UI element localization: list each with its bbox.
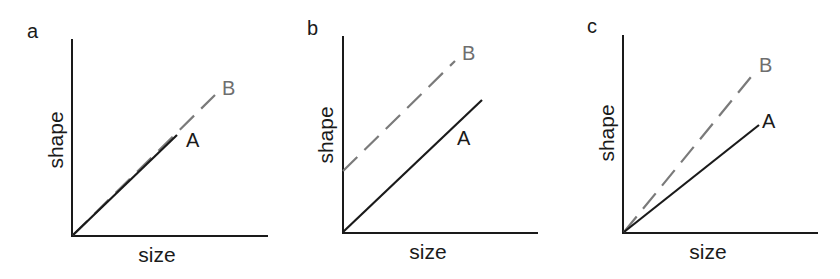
figure-canvas: a size shape A B b size shape A B c size…: [0, 0, 840, 279]
panel-letter: b: [307, 17, 318, 39]
panel-b: b size shape A B: [307, 17, 538, 263]
line-a-label: A: [186, 129, 200, 151]
line-b-label: B: [462, 42, 475, 64]
x-axis-label: size: [409, 240, 446, 263]
line-b: [624, 77, 751, 232]
line-b-label: B: [759, 54, 772, 76]
panel-letter: c: [587, 15, 597, 37]
line-b-label: B: [222, 77, 235, 99]
y-axis-label: shape: [314, 106, 337, 163]
line-a: [343, 100, 482, 232]
line-a: [624, 125, 759, 232]
line-a: [73, 135, 177, 235]
line-b: [343, 61, 455, 171]
line-a-label: A: [457, 127, 471, 149]
panel-a: a size shape A B: [27, 20, 268, 266]
y-axis-label: shape: [595, 104, 618, 161]
y-axis-label: shape: [44, 111, 67, 168]
panel-c: c size shape A B: [587, 15, 818, 263]
line-a-label: A: [762, 110, 776, 132]
x-axis-label: size: [689, 240, 726, 263]
panel-letter: a: [27, 20, 39, 42]
x-axis-label: size: [138, 243, 175, 266]
